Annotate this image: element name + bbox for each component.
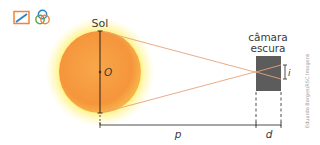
center-label: O — [104, 66, 112, 78]
pinhole-camera-diagram: Sol O câmara escura i p d Eduardo Borges… — [0, 0, 320, 145]
image-label: i — [288, 68, 291, 78]
sun-center-dot — [99, 71, 101, 73]
sun-label: Sol — [92, 17, 109, 30]
distance-p-label: p — [174, 128, 182, 140]
distance-d-label: d — [266, 128, 273, 140]
image-credit: Eduardo Borges/ASC Imagens — [304, 53, 311, 128]
camera-label-line2: escura — [250, 42, 285, 54]
